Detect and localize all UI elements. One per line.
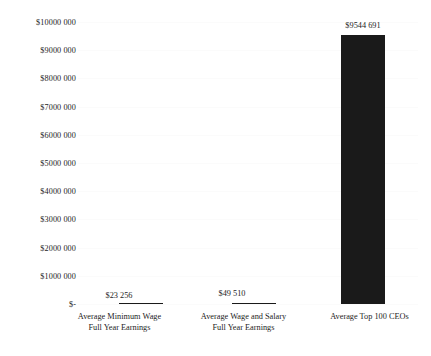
y-axis-tick-label: $2000 000 bbox=[0, 244, 76, 253]
x-axis-label-average-top-100-ceos: Average Top 100 CEOs bbox=[308, 312, 431, 323]
y-axis-tick-label: $6000 000 bbox=[0, 131, 76, 140]
x-axis-label-line: Full Year Earnings bbox=[181, 323, 306, 334]
y-axis-tick-label: $10000 000 bbox=[0, 18, 76, 27]
y-axis-tick-label: $- bbox=[0, 300, 76, 309]
x-axis-label-line: Average Minimum Wage bbox=[60, 312, 179, 323]
value-label-average-wage-and-salary: $49 510 bbox=[202, 289, 262, 299]
x-axis-label-line: Average Top 100 CEOs bbox=[308, 312, 431, 323]
bar-chart: $10000 000 $9000 000 $8000 000 $7000 000… bbox=[0, 0, 431, 356]
y-axis: $10000 000 $9000 000 $8000 000 $7000 000… bbox=[0, 0, 76, 310]
y-axis-tick-label: $4000 000 bbox=[0, 187, 76, 196]
x-axis-label-line: Full Year Earnings bbox=[60, 323, 179, 334]
y-axis-tick-label: $7000 000 bbox=[0, 103, 76, 112]
bar-average-top-100-ceos[interactable] bbox=[341, 35, 385, 304]
gridline bbox=[78, 304, 418, 305]
x-axis-label-average-minimum-wage: Average Minimum Wage Full Year Earnings bbox=[60, 312, 179, 333]
x-axis-label-line: Average Wage and Salary bbox=[181, 312, 306, 323]
value-label-average-minimum-wage: $23 256 bbox=[89, 291, 149, 301]
bar-average-minimum-wage[interactable] bbox=[119, 303, 163, 304]
y-axis-tick-label: $5000 000 bbox=[0, 159, 76, 168]
value-label-average-top-100-ceos: $9544 691 bbox=[333, 21, 393, 31]
bar-average-wage-and-salary[interactable] bbox=[232, 303, 276, 304]
x-axis-label-average-wage-and-salary: Average Wage and Salary Full Year Earnin… bbox=[181, 312, 306, 333]
y-axis-tick-label: $1000 000 bbox=[0, 272, 76, 281]
bars-layer bbox=[78, 22, 418, 304]
y-axis-tick-label: $9000 000 bbox=[0, 46, 76, 55]
y-axis-tick-label: $8000 000 bbox=[0, 74, 76, 83]
x-axis: Average Minimum Wage Full Year Earnings … bbox=[60, 312, 431, 346]
y-axis-tick-label: $3000 000 bbox=[0, 215, 76, 224]
